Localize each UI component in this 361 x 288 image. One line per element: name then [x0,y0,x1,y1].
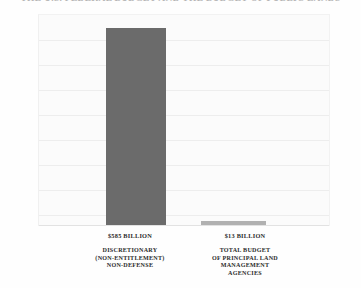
gridline [39,140,329,141]
gridline [39,40,329,41]
bar-label-land-management: $13 BILLION TOTAL BUDGET OF PRINCIPAL LA… [178,232,312,277]
gridline [39,215,329,216]
bar-caption-line: OF PRINCIPAL LAND [178,255,312,263]
plot-area [38,14,330,226]
bar-caption-line: (NON-ENTITLEMENT) [70,255,190,263]
bar-caption-line: TOTAL BUDGET [178,247,312,255]
chart-title: THE U.S. FEDERAL BUDGET AND THE BUDGET O… [0,0,361,3]
gridline [39,90,329,91]
gridline [39,65,329,66]
bar-value-land-management: $13 BILLION [178,232,312,240]
bar-caption-land-management: TOTAL BUDGET OF PRINCIPAL LAND MANAGEMEN… [178,247,312,277]
bar-caption-line: DISCRETIONARY [70,247,190,255]
bar-caption-line: MANAGEMENT [178,262,312,270]
bar-chart-figure: THE U.S. FEDERAL BUDGET AND THE BUDGET O… [0,0,361,288]
bar-caption-line: AGENCIES [178,270,312,278]
gridline [39,115,329,116]
bar-discretionary [106,28,166,226]
bar-label-discretionary: $585 BILLION DISCRETIONARY (NON-ENTITLEM… [70,232,190,270]
gridline [39,165,329,166]
chart-title-band: THE U.S. FEDERAL BUDGET AND THE BUDGET O… [0,0,361,8]
bar-caption-discretionary: DISCRETIONARY (NON-ENTITLEMENT) NON-DEFE… [70,247,190,270]
axis-baseline [39,225,329,226]
bar-value-discretionary: $585 BILLION [70,232,190,240]
bar-caption-line: NON-DEFENSE [70,262,190,270]
gridlines [39,15,329,226]
gridline [39,190,329,191]
